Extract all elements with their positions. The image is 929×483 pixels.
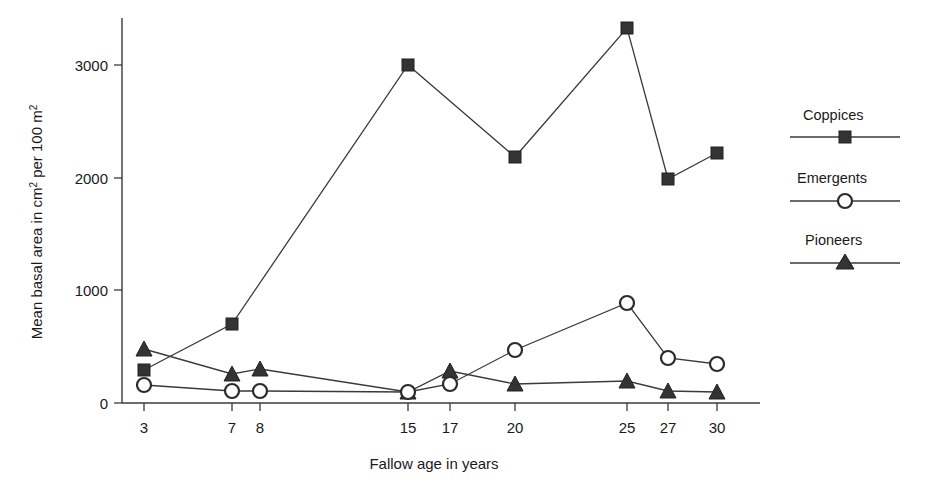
data-point-emergents-20 xyxy=(508,343,522,357)
data-point-coppices-15 xyxy=(402,59,414,71)
data-point-emergents-7 xyxy=(225,384,239,398)
x-axis-tick-labels: 3 7 8 15 17 20 25 27 30 xyxy=(140,419,726,436)
y-axis-tick-labels: 0 1000 2000 3000 xyxy=(75,57,108,412)
y-axis-title-sup-2: 2 xyxy=(28,104,39,110)
data-point-pioneers-17 xyxy=(442,363,458,378)
legend-entry-pioneers[interactable]: Pioneers xyxy=(790,232,900,269)
data-point-emergents-30 xyxy=(710,357,724,371)
data-point-pioneers-3 xyxy=(136,341,152,356)
legend-label-coppices: Coppices xyxy=(803,107,863,123)
x-tick-label-27: 27 xyxy=(660,419,677,436)
data-point-emergents-8 xyxy=(253,384,267,398)
data-point-coppices-7 xyxy=(226,318,238,330)
y-axis-title-part-a: Mean basal area in cm xyxy=(28,188,45,340)
legend-marker-filled-square-icon xyxy=(839,131,851,143)
y-tick-label-3000: 3000 xyxy=(75,57,108,74)
x-tick-label-17: 17 xyxy=(442,419,459,436)
x-tick-label-30: 30 xyxy=(709,419,726,436)
data-point-coppices-25 xyxy=(621,22,633,34)
y-axis-ticks xyxy=(114,65,122,403)
data-point-coppices-20 xyxy=(509,151,521,163)
chart-legend: Coppices Emergents Pioneers xyxy=(790,107,900,269)
legend-entry-emergents[interactable]: Emergents xyxy=(790,170,900,208)
data-point-coppices-27 xyxy=(662,173,674,185)
x-tick-label-20: 20 xyxy=(507,419,524,436)
data-point-emergents-27 xyxy=(661,351,675,365)
x-tick-label-3: 3 xyxy=(140,419,148,436)
x-tick-label-7: 7 xyxy=(228,419,236,436)
legend-marker-filled-triangle-icon xyxy=(836,254,854,269)
line-chart-canvas: 0 1000 2000 3000 3 7 8 15 17 20 25 27 xyxy=(0,0,929,483)
x-tick-label-25: 25 xyxy=(619,419,636,436)
data-point-emergents-25 xyxy=(620,296,634,310)
data-point-emergents-17 xyxy=(443,377,457,391)
legend-entry-coppices[interactable]: Coppices xyxy=(790,107,900,143)
y-axis-title-part-b: per 100 m xyxy=(28,110,45,182)
x-tick-label-15: 15 xyxy=(400,419,417,436)
legend-label-emergents: Emergents xyxy=(797,170,867,186)
data-point-emergents-15 xyxy=(401,385,415,399)
data-point-pioneers-8 xyxy=(252,361,268,376)
x-axis-title: Fallow age in years xyxy=(369,455,498,472)
series-coppices xyxy=(138,22,723,376)
x-tick-label-8: 8 xyxy=(256,419,264,436)
y-tick-label-0: 0 xyxy=(100,395,108,412)
data-point-coppices-30 xyxy=(711,147,723,159)
legend-label-pioneers: Pioneers xyxy=(805,232,862,248)
legend-marker-open-circle-icon xyxy=(838,194,852,208)
chart-figure: 0 1000 2000 3000 3 7 8 15 17 20 25 27 xyxy=(0,0,929,483)
x-axis-ticks xyxy=(144,403,717,411)
data-point-emergents-3 xyxy=(137,378,151,392)
y-tick-label-1000: 1000 xyxy=(75,282,108,299)
data-point-coppices-3 xyxy=(138,364,150,376)
y-axis-title: Mean basal area in cm2 per 100 m2 xyxy=(28,104,45,339)
y-tick-label-2000: 2000 xyxy=(75,170,108,187)
